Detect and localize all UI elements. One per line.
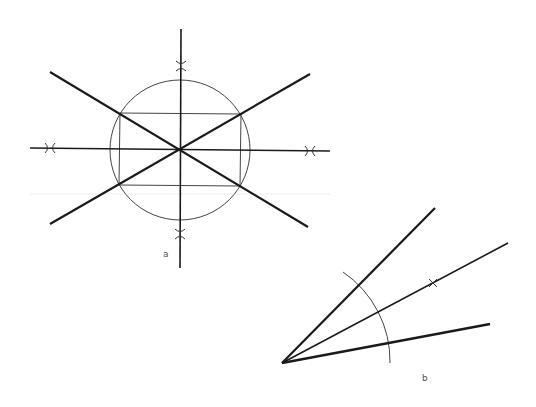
- figure-b-angle-bisection: b: [282, 208, 508, 383]
- cross-mark-icon: [429, 279, 437, 287]
- figure-a-label: a: [163, 249, 169, 259]
- ray-bisector-line: [282, 243, 508, 363]
- bisector-intersection-mark: [429, 279, 437, 287]
- figure-b-label: b: [422, 373, 428, 383]
- figure-a-circle-construction: a: [30, 29, 330, 268]
- geometry-diagram: a b: [0, 0, 536, 407]
